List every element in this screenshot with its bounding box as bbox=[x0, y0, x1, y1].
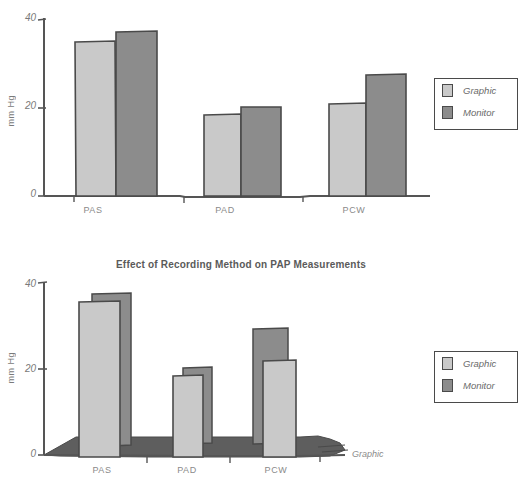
bar-pad-monitor-top bbox=[241, 107, 281, 196]
bar-pad-graphic-top bbox=[204, 114, 241, 196]
legend-swatch-monitor-top bbox=[442, 106, 453, 119]
legend-label-graphic-bottom: Graphic bbox=[463, 358, 496, 369]
bar-pad-graphic-bottom bbox=[173, 375, 203, 457]
legend-swatch-graphic-top bbox=[442, 84, 453, 97]
legend-item-graphic-bottom: Graphic bbox=[435, 352, 517, 374]
bar-pas-graphic-bottom bbox=[79, 301, 120, 457]
x-label-pcw-bottom: PCW bbox=[253, 465, 299, 475]
y-tick-mark-40-top bbox=[38, 19, 46, 20]
bar-pcw-graphic-bottom bbox=[263, 360, 296, 457]
x-label-pad-bottom: PAD bbox=[164, 465, 210, 475]
x-label-pas-bottom: PAS bbox=[79, 465, 125, 475]
legend-item-monitor-bottom: Monitor bbox=[435, 374, 517, 396]
chart-bottom: Effect of Recording Method on PAP Measur… bbox=[0, 240, 523, 493]
legend-item-graphic-top: Graphic bbox=[435, 79, 517, 101]
legend-swatch-monitor-bottom bbox=[442, 379, 453, 392]
legend-item-monitor-top: Monitor bbox=[435, 101, 517, 123]
legend-bottom: Graphic Monitor bbox=[434, 351, 518, 403]
bar-pcw-monitor-top bbox=[366, 74, 406, 196]
depth-axis-label-bottom: Graphic bbox=[352, 449, 384, 459]
figure-container: mm Hg 40 20 0 PAS PAD bbox=[0, 0, 523, 493]
bar-pcw-graphic-top bbox=[329, 103, 366, 196]
x-label-pas-top: PAS bbox=[70, 205, 116, 215]
legend-label-graphic-top: Graphic bbox=[463, 85, 496, 96]
legend-label-monitor-bottom: Monitor bbox=[463, 380, 495, 391]
legend-swatch-graphic-bottom bbox=[442, 357, 453, 370]
x-label-pad-top: PAD bbox=[202, 205, 248, 215]
chart-top: mm Hg 40 20 0 PAS PAD bbox=[0, 0, 523, 240]
x-label-pcw-top: PCW bbox=[331, 205, 377, 215]
bar-pas-monitor-top bbox=[116, 31, 157, 196]
y-tick-mark-40-bottom bbox=[38, 282, 47, 283]
legend-top: Graphic Monitor bbox=[434, 78, 518, 130]
legend-label-monitor-top: Monitor bbox=[463, 107, 495, 118]
bar-pas-graphic-top bbox=[75, 41, 116, 196]
